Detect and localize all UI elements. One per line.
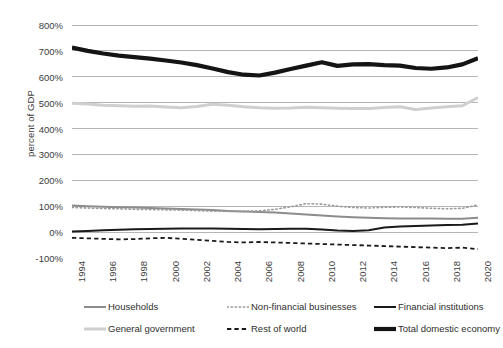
x-axis-tick-label: 2012 [357, 261, 368, 282]
x-axis-tick-label: 2016 [420, 261, 431, 282]
legend-item-rest-of-world[interactable]: Rest of world [227, 323, 306, 335]
y-axis-tick-label: 200% [39, 175, 63, 186]
x-axis-tick-label: 2014 [388, 261, 399, 282]
y-axis-tick-label: 300% [39, 149, 63, 160]
x-axis-tick-label: 1998 [138, 261, 149, 282]
legend-item-total-domestic-economy[interactable]: Total domestic economy [374, 323, 500, 335]
legend-swatch-total-domestic-economy [374, 323, 396, 335]
chart-legend: HouseholdsNon-financial businessesFinanc… [84, 301, 496, 345]
x-axis-tick-label: 2010 [326, 261, 337, 282]
plot-svg [72, 25, 478, 258]
x-axis-tick-label: 2004 [232, 261, 243, 282]
x-axis-tick-labels: 1994199619982000200220042006200820102012… [72, 258, 478, 300]
legend-swatch-households [84, 301, 106, 313]
legend-item-non-financial-businesses[interactable]: Non-financial businesses [227, 301, 357, 313]
legend-item-households[interactable]: Households [84, 301, 158, 313]
y-axis-tick-label: 700% [39, 45, 63, 56]
x-axis-tick-label: 2006 [263, 261, 274, 282]
legend-swatch-non-financial-businesses [227, 301, 249, 313]
plot-area [72, 25, 478, 258]
y-axis-tick-label: 400% [39, 123, 63, 134]
series-line-total-domestic-economy [72, 48, 478, 76]
legend-label-general-government: General government [108, 324, 195, 334]
y-axis-tick-label: 500% [39, 97, 63, 108]
y-axis-tick-label: 100% [39, 201, 63, 212]
y-axis-tick-labels: -100%0%100%200%300%400%500%600%700%800% [0, 0, 68, 348]
legend-label-rest-of-world: Rest of world [251, 324, 306, 334]
y-axis-tick-label: 600% [39, 71, 63, 82]
series-lines [72, 48, 478, 250]
x-axis-tick-label: 2008 [295, 261, 306, 282]
legend-item-financial-institutions[interactable]: Financial institutions [374, 301, 484, 313]
y-axis-tick-label: 800% [39, 20, 63, 31]
y-axis-tick-label: 0% [49, 227, 63, 238]
x-axis-tick-label: 1996 [107, 261, 118, 282]
legend-label-households: Households [108, 302, 158, 312]
legend-swatch-general-government [84, 323, 106, 335]
legend-swatch-rest-of-world [227, 323, 249, 335]
legend-label-total-domestic-economy: Total domestic economy [398, 324, 500, 334]
series-line-households [72, 205, 478, 218]
legend-label-non-financial-businesses: Non-financial businesses [251, 302, 357, 312]
y-axis-tick-label: -100% [36, 253, 63, 264]
legend-swatch-financial-institutions [374, 301, 396, 313]
series-line-financial-institutions [72, 224, 478, 232]
gridlines [72, 25, 478, 258]
legend-item-general-government[interactable]: General government [84, 323, 195, 335]
x-axis-tick-label: 1994 [76, 261, 87, 282]
x-axis-tick-label: 2000 [170, 261, 181, 282]
series-line-general-government [72, 97, 478, 109]
legend-label-financial-institutions: Financial institutions [398, 302, 484, 312]
x-axis-tick-label: 2018 [451, 261, 462, 282]
x-axis-tick-label: 2020 [482, 261, 493, 282]
chart-container: percent of GDP -100%0%100%200%300%400%50… [0, 0, 503, 348]
series-line-rest-of-world [72, 238, 478, 249]
x-axis-tick-label: 2002 [201, 261, 212, 282]
